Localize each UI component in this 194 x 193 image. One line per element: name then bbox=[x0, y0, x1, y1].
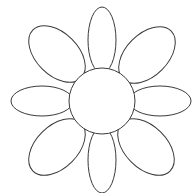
petal-left bbox=[11, 86, 73, 116]
flower-center bbox=[69, 68, 135, 134]
flower-outline bbox=[0, 0, 194, 193]
petal-bottom bbox=[88, 127, 116, 193]
petal-right bbox=[129, 86, 191, 116]
petal-top bbox=[88, 7, 116, 73]
